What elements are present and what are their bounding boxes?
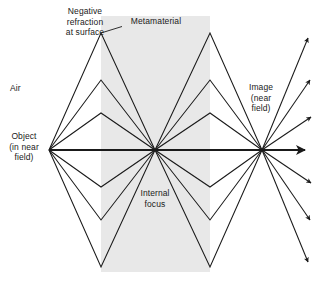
label-internal-focus: Internal focus — [120, 188, 190, 209]
label-metamaterial: Metamaterial — [112, 16, 200, 27]
label-air: Air — [10, 83, 42, 94]
exit-ray-down-1 — [262, 150, 311, 183]
exit-ray-up-3 — [262, 117, 311, 150]
label-negative-refraction: Negative refraction at surface — [48, 6, 122, 38]
figure-canvas: Negative refraction at surface Metamater… — [0, 0, 317, 287]
metamaterial-slab — [101, 16, 210, 272]
label-object: Object (in near field) — [0, 131, 48, 163]
exit-ray-down-3 — [262, 150, 308, 262]
label-image: Image (near field) — [238, 82, 284, 114]
